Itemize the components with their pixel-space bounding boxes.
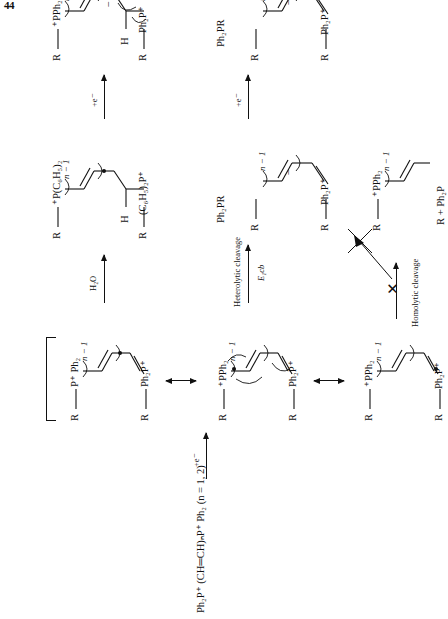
- resonance-arrow-bottom: [314, 380, 344, 381]
- species-start-material: Ph₂P⁺ (CH═CH)ₙP⁺ Ph₂ (n = 1, 2): [196, 465, 207, 613]
- arrow-reduction-3-label: +e⁻: [233, 93, 243, 107]
- label-n-minus-1-ylide: n − 1: [62, 0, 71, 1]
- label-PPh2-plus-ylide: ⁺PPh₂: [52, 0, 63, 27]
- label-minus-ylide: −: [104, 1, 115, 7]
- resonance-arrow-top: [166, 380, 196, 381]
- label-PPh2-plus-homo: ⁺PPh₂: [372, 170, 383, 197]
- arrow-hydration-1-label: H₂O: [88, 276, 98, 291]
- label-R-mid2: R: [288, 414, 299, 421]
- label-R-carb1: R: [250, 224, 261, 231]
- label-minus-carb2: −: [284, 0, 295, 5]
- label-n-minus-1-mid: n − 1: [228, 341, 237, 361]
- label-Ph2P-plus-ylide: Ph₂P⁺: [138, 6, 149, 33]
- label-minus-carb1: −: [284, 169, 295, 175]
- arrow-homolytic-label: Homolytic cleavage: [410, 259, 420, 327]
- label-R-homo: R: [372, 224, 383, 231]
- label-R-adduct: R: [52, 232, 63, 239]
- arrow-reduction-1: [206, 433, 207, 479]
- label-PPh2-plus-top: P⁺ Ph₂: [70, 358, 81, 387]
- arrow-heterolytic-sublabel: E₁cb: [256, 265, 266, 281]
- label-H-ylide: H: [120, 37, 131, 45]
- label-R-carb2: R: [250, 54, 261, 61]
- species-ph2pr-2: Ph₂PR: [216, 19, 227, 47]
- label-R-bot2: R: [434, 414, 445, 421]
- label-R-adduct2: R: [138, 232, 149, 239]
- label-PPh2-plus-mid: ⁺PPh₂: [218, 360, 229, 387]
- label-n-minus-1-bot: n − 1: [374, 341, 383, 361]
- label-C6H5-2-P-plus: (C₆H₅)₂P⁺: [138, 171, 149, 215]
- label-R-top2: R: [140, 414, 151, 421]
- label-Ph2P-plus-carb1: Ph₂P⁺: [320, 178, 331, 205]
- label-R-bot: R: [364, 414, 375, 421]
- arrow-reduction-1-label: +e⁻: [191, 453, 201, 467]
- homolytic-strike-1: ✕: [386, 282, 401, 295]
- arrow-heterolytic-label: Heterolytic cleavage: [232, 237, 242, 307]
- species-ph2pr-1: Ph₂PR: [216, 195, 227, 223]
- label-H-adduct: H: [120, 215, 131, 223]
- label-R-ylide: R: [52, 54, 63, 61]
- label-n-minus-1-carb2: n − 1: [258, 0, 267, 1]
- label-R-ylide2: R: [138, 54, 149, 61]
- label-Ph2P-plus-mid: Ph₂P⁺: [288, 360, 299, 387]
- label-n-minus-1-adduct: n − 1: [62, 159, 71, 179]
- label-Ph2P-plus-carb2: Ph₂P⁺: [320, 8, 331, 35]
- label-Ph2P-plus-top: Ph₂P⁺: [140, 360, 151, 387]
- arrow-reduction-2: [104, 75, 105, 119]
- label-n-minus-1-carb1: n − 1: [258, 151, 267, 171]
- arrow-hydration-1: [104, 255, 105, 303]
- arrow-reduction-3: [248, 75, 249, 119]
- label-R-mid: R: [218, 414, 229, 421]
- label-R-top: R: [70, 414, 81, 421]
- label-n-minus-1-homo: n − 1: [382, 151, 391, 171]
- label-R-carb1b: R: [320, 224, 331, 231]
- label-PPh2-plus-bot: ⁺PPh₂: [364, 360, 375, 387]
- label-n-minus-1-top: n − 1: [80, 341, 89, 361]
- resonance-bracket: [46, 337, 56, 421]
- label-R-carb2b: R: [320, 54, 331, 61]
- label-Ph2P-plus-bot: Ph₂P⁺: [434, 362, 445, 389]
- arrow-reduction-2-label: +e⁻: [89, 93, 99, 107]
- arrow-heterolytic: [248, 245, 249, 303]
